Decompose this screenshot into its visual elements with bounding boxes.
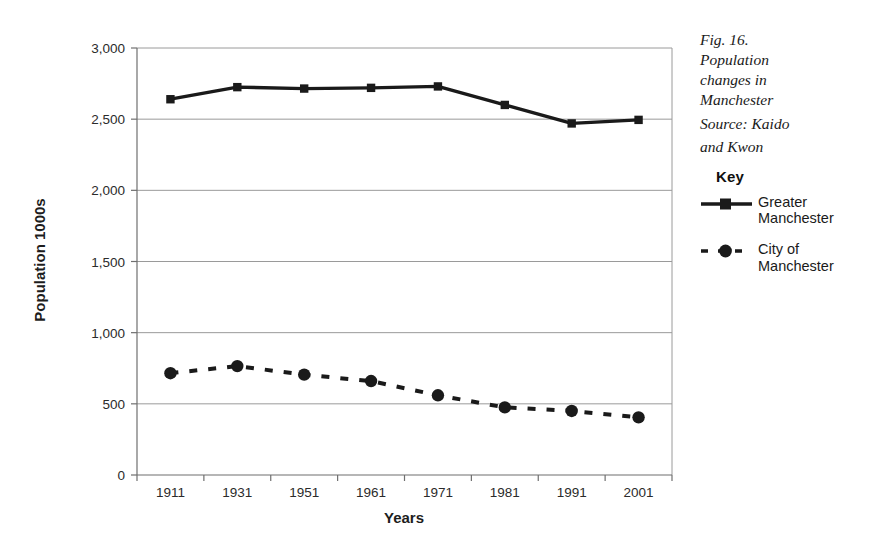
y-axis-title: Population 1000s	[31, 198, 48, 321]
data-point	[300, 84, 308, 92]
x-axis-tick-label: 1991	[557, 485, 587, 500]
series-greater-manchester	[166, 82, 643, 127]
data-point	[634, 116, 642, 124]
x-axis-tick-label: 1931	[222, 485, 252, 500]
x-axis-tick-label: 1961	[356, 485, 386, 500]
x-axis-tick-labels: 19111931195119611971198119912001	[156, 485, 654, 500]
figure-caption: Fig. 16. Population changes in Mancheste…	[700, 30, 870, 157]
data-point	[231, 360, 243, 372]
data-point	[565, 405, 577, 417]
data-point	[499, 401, 511, 413]
y-axis-tick-label: 1,500	[91, 255, 125, 270]
data-point	[233, 83, 241, 91]
y-axis-tick-label: 1,000	[91, 326, 125, 341]
caption-source-line: Source: Kaido	[700, 114, 870, 134]
caption-source-line: and Kwon	[700, 137, 870, 157]
x-axis-tick-label: 2001	[624, 485, 654, 500]
data-point	[501, 101, 509, 109]
x-axis-tick-label: 1951	[289, 485, 319, 500]
data-point	[164, 367, 176, 379]
caption-line: Manchester	[700, 90, 870, 110]
y-axis-tick-label: 3,000	[91, 41, 125, 56]
x-axis-tick-label: 1981	[490, 485, 520, 500]
legend-item-city-of-manchester: City of Manchester	[700, 240, 873, 273]
x-axis-ticks	[137, 475, 672, 481]
y-axis-tick-label: 2,000	[91, 183, 125, 198]
legend-label-city-of-manchester: City of Manchester	[758, 240, 834, 273]
y-axis-tick-label: 500	[102, 397, 125, 412]
x-axis-tick-label: 1971	[423, 485, 453, 500]
legend-label-line: Manchester	[758, 210, 834, 226]
data-series-group	[164, 82, 645, 423]
data-point	[632, 411, 644, 423]
figure-root: 05001,0001,5002,0002,5003,000 1911193119…	[0, 0, 873, 548]
y-axis-tick-label: 2,500	[91, 112, 125, 127]
gridlines	[137, 48, 672, 404]
population-line-chart: 05001,0001,5002,0002,5003,000 1911193119…	[0, 0, 690, 548]
data-point	[432, 389, 444, 401]
x-axis-tick-label: 1911	[156, 485, 185, 500]
legend-swatch-dashed-circle	[700, 240, 758, 262]
legend-title: Key	[716, 168, 873, 185]
caption-line: changes in	[700, 70, 870, 90]
data-point	[567, 119, 575, 127]
data-point	[166, 95, 174, 103]
legend-label-line: City of	[758, 241, 834, 257]
legend-label-greater-manchester: Greater Manchester	[758, 193, 834, 226]
legend-item-greater-manchester: Greater Manchester	[700, 193, 873, 226]
legend-swatch-solid-square	[700, 193, 758, 215]
legend-label-line: Greater	[758, 194, 834, 210]
legend: Key Greater Manchester	[700, 168, 873, 288]
x-axis-title: Years	[384, 509, 424, 526]
data-point	[434, 82, 442, 90]
data-point	[365, 375, 377, 387]
series-city-of-manchester	[164, 360, 645, 424]
caption-line: Fig. 16.	[700, 30, 870, 50]
series-line	[170, 86, 638, 123]
caption-line: Population	[700, 50, 870, 70]
side-column: Fig. 16. Population changes in Mancheste…	[696, 0, 873, 548]
y-axis-ticks	[131, 48, 137, 475]
y-axis-tick-labels: 05001,0001,5002,0002,5003,000	[91, 41, 125, 483]
data-point	[298, 368, 310, 380]
chart-area: 05001,0001,5002,0002,5003,000 1911193119…	[0, 0, 690, 548]
legend-label-line: Manchester	[758, 258, 834, 274]
data-point	[367, 84, 375, 92]
y-axis-tick-label: 0	[117, 468, 125, 483]
